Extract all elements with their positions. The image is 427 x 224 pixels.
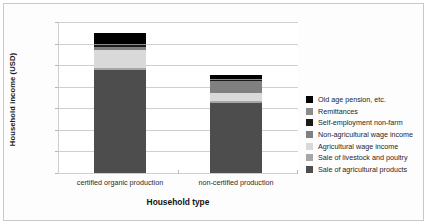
legend-swatch-icon xyxy=(306,119,313,126)
legend-swatch-icon xyxy=(306,154,313,161)
x-tick-mark xyxy=(178,170,179,174)
legend-item[interactable]: Sale of agricultural products xyxy=(306,164,422,176)
legend-swatch-icon xyxy=(306,143,313,150)
legend-label: Non-agricultural wage income xyxy=(318,131,413,138)
legend-swatch-icon xyxy=(306,166,313,173)
legend-label: Old age pension, etc. xyxy=(318,96,386,103)
x-tick-label: non-certified production xyxy=(161,178,311,187)
chart-legend: Old age pension, etc.RemittancesSelf-emp… xyxy=(306,94,422,175)
x-axis-title: Household type xyxy=(58,197,298,207)
legend-swatch-icon xyxy=(306,131,313,138)
legend-label: Self-employment non-farm xyxy=(318,119,403,126)
bar-2 xyxy=(210,75,262,173)
y-axis-title: Household income (USD) xyxy=(8,25,17,175)
bar-segment xyxy=(210,93,262,101)
legend-item[interactable]: Self-employment non-farm xyxy=(306,117,422,129)
legend-item[interactable]: Remittances xyxy=(306,106,422,118)
legend-label: Sale of agricultural products xyxy=(318,166,407,173)
y-tick-mark xyxy=(55,173,58,174)
plot-area: 70006000500040003000200010000 xyxy=(58,22,298,174)
bar-segment xyxy=(94,33,146,44)
gridline xyxy=(58,22,298,23)
bar-1 xyxy=(94,33,146,173)
y-tick-mark xyxy=(55,22,58,23)
y-tick-mark xyxy=(55,44,58,45)
legend-item[interactable]: Old age pension, etc. xyxy=(306,94,422,106)
y-tick-mark xyxy=(55,151,58,152)
bar-segment xyxy=(94,50,146,68)
legend-label: Remittances xyxy=(318,108,358,115)
bar-segment xyxy=(210,103,262,173)
legend-label: Agricultural wage income xyxy=(318,143,398,150)
bar-segment xyxy=(94,70,146,173)
legend-item[interactable]: Non-agricultural wage income xyxy=(306,129,422,141)
y-tick-mark xyxy=(55,87,58,88)
legend-swatch-icon xyxy=(306,96,313,103)
x-tick-mark xyxy=(297,170,298,174)
chart-figure: Household income (USD) 70006000500040003… xyxy=(0,0,427,224)
y-tick-mark xyxy=(55,108,58,109)
y-tick-mark xyxy=(55,65,58,66)
bar-segment xyxy=(210,81,262,93)
legend-item[interactable]: Sale of livestock and poultry xyxy=(306,152,422,164)
y-tick-mark xyxy=(55,130,58,131)
legend-label: Sale of livestock and poultry xyxy=(318,154,408,161)
legend-item[interactable]: Agricultural wage income xyxy=(306,140,422,152)
legend-swatch-icon xyxy=(306,108,313,115)
